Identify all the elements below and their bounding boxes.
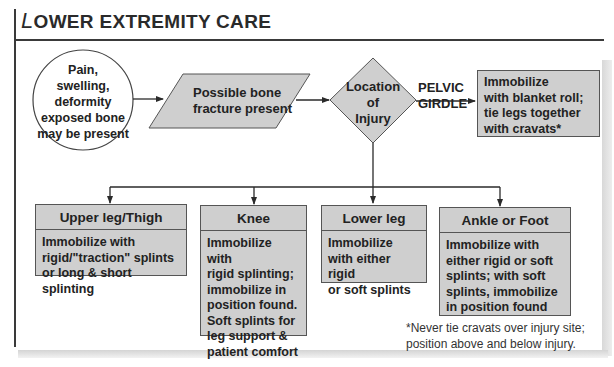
- branch-heading: Knee: [201, 206, 306, 231]
- branch-lower-leg: Lower leg Immobilize with either rigid o…: [321, 205, 427, 283]
- branch-body: Immobilize with either rigid or soft spl…: [322, 231, 426, 303]
- pelvic-action-line: with blanket roll;: [484, 91, 593, 107]
- pelvic-action-line: Immobilize: [484, 75, 593, 91]
- branch-line: Immobilize with: [207, 236, 300, 267]
- branch-line: or soft splints: [328, 283, 420, 299]
- branch-line: rigid/"traction" splints: [42, 251, 180, 267]
- branch-upper-leg: Upper leg/Thigh Immobilize with rigid/"t…: [35, 204, 187, 276]
- footnote-line: *Never tie cravats over injury site;: [406, 320, 596, 336]
- decision-line: Injury: [335, 111, 411, 127]
- start-line: deformity: [35, 94, 131, 110]
- branch-line: Immobilize: [328, 236, 420, 252]
- footnote-line: position above and below injury.: [406, 336, 596, 352]
- branch-line: splints; with soft: [446, 269, 564, 285]
- branch-line: immobilize in: [207, 283, 300, 299]
- start-circle-text: Pain, swelling, deformity exposed bone m…: [35, 62, 131, 142]
- pelvic-action-box: Immobilize with blanket roll; tie legs t…: [477, 70, 600, 137]
- branch-line: rigid splinting;: [207, 267, 300, 283]
- pelvic-label-line: PELVIC: [418, 80, 474, 96]
- process-line: fracture present: [193, 101, 313, 117]
- branch-body: Immobilize with either rigid or soft spl…: [440, 233, 570, 321]
- branch-line: leg support &: [207, 329, 300, 345]
- branch-line: Immobilize with: [42, 235, 180, 251]
- decision-line: of: [335, 95, 411, 111]
- pelvic-label-line: GIRDLE: [418, 96, 474, 112]
- branch-heading: Upper leg/Thigh: [36, 205, 186, 230]
- pelvic-action-line: with cravats*: [484, 122, 593, 138]
- branch-body: Immobilize with rigid/"traction" splints…: [36, 230, 186, 302]
- branch-line: either rigid or soft: [446, 254, 564, 270]
- decision-text: Location of Injury: [335, 79, 411, 127]
- decision-line: Location: [335, 79, 411, 95]
- start-line: Pain,: [35, 62, 131, 78]
- pelvic-girdle-label: PELVIC GIRDLE: [418, 80, 474, 112]
- branch-line: splints, immobilize: [446, 285, 564, 301]
- branch-line: in position found: [446, 300, 564, 316]
- branch-heading: Lower leg: [322, 206, 426, 231]
- branch-heading: Ankle or Foot: [440, 208, 570, 233]
- pelvic-action-line: tie legs together: [484, 106, 593, 122]
- start-line: swelling,: [35, 78, 131, 94]
- start-line: exposed bone: [35, 110, 131, 126]
- branch-line: Immobilize with: [446, 238, 564, 254]
- branch-line: Soft splints for: [207, 314, 300, 330]
- footnote: *Never tie cravats over injury site; pos…: [406, 320, 596, 352]
- branch-line: patient comfort: [207, 345, 300, 361]
- branch-body: Immobilize with rigid splinting; immobil…: [201, 231, 306, 365]
- branch-knee: Knee Immobilize with rigid splinting; im…: [200, 205, 307, 336]
- branch-line: or long & short splinting: [42, 266, 180, 297]
- branch-ankle-foot: Ankle or Foot Immobilize with either rig…: [439, 207, 571, 316]
- branch-line: with either rigid: [328, 252, 420, 283]
- process-line: Possible bone: [193, 85, 313, 101]
- branch-line: position found.: [207, 298, 300, 314]
- process-text: Possible bone fracture present: [193, 85, 313, 117]
- start-line: may be present: [35, 126, 131, 142]
